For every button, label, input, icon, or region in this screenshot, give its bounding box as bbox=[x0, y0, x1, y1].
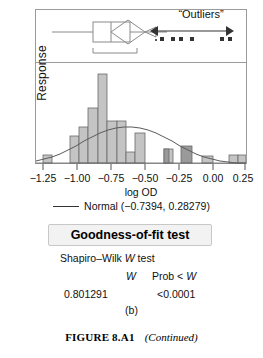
value-w: 0.801291 bbox=[64, 288, 108, 300]
legend-line-swatch bbox=[53, 206, 79, 207]
outliers-label: “Outliers” bbox=[156, 8, 246, 20]
x-tick-label: −0.25 bbox=[166, 172, 193, 184]
distribution-plot-frame: “Outliers” bbox=[35, 9, 247, 164]
prob-header-stat: W bbox=[186, 270, 196, 282]
x-tick-label: −1.25 bbox=[30, 172, 57, 184]
goodness-of-fit-panel-title[interactable]: Goodness-of-fit test bbox=[48, 224, 212, 246]
x-axis-title: log OD bbox=[35, 186, 247, 198]
figure-caption: FIGURE 8.A1(Continued) bbox=[0, 331, 263, 343]
boxplot-panel: “Outliers” bbox=[36, 10, 246, 62]
test-name: Shapiro–Wilk W test bbox=[60, 252, 155, 264]
value-prob: <0.0001 bbox=[157, 288, 195, 300]
x-axis: −1.25 −1.00 −0.75 −0.50 −0.25 0.00 0.25 … bbox=[35, 164, 247, 198]
figure-caption-note: (Continued) bbox=[145, 331, 198, 343]
x-tick-label: −1.00 bbox=[64, 172, 91, 184]
x-tick-label: 0.25 bbox=[233, 172, 253, 184]
goodness-of-fit-title-text: Goodness-of-fit test bbox=[71, 228, 190, 242]
y-axis-label: Response bbox=[35, 3, 49, 143]
x-tick-label: 0.00 bbox=[203, 172, 223, 184]
figure-page: “Outliers” bbox=[0, 0, 263, 358]
column-header-prob: Prob < W bbox=[152, 270, 196, 282]
legend-label-normal: Normal (−0.7394, 0.28279) bbox=[84, 200, 210, 212]
histogram-bars bbox=[36, 63, 246, 164]
test-name-stat: W bbox=[125, 252, 135, 264]
x-axis-ticks bbox=[35, 164, 247, 172]
prob-header-prefix: Prob < bbox=[152, 270, 186, 282]
x-tick-label: −0.75 bbox=[98, 172, 125, 184]
column-header-w: W bbox=[126, 270, 136, 282]
chart-legend: Normal (−0.7394, 0.28279) bbox=[0, 200, 263, 212]
histogram-panel bbox=[36, 63, 246, 164]
test-name-suffix: test bbox=[135, 252, 155, 264]
subfigure-label: (b) bbox=[0, 304, 263, 316]
test-name-prefix: Shapiro–Wilk bbox=[60, 252, 125, 264]
x-tick-label: −0.50 bbox=[132, 172, 159, 184]
figure-caption-number: FIGURE 8.A1 bbox=[65, 331, 134, 343]
